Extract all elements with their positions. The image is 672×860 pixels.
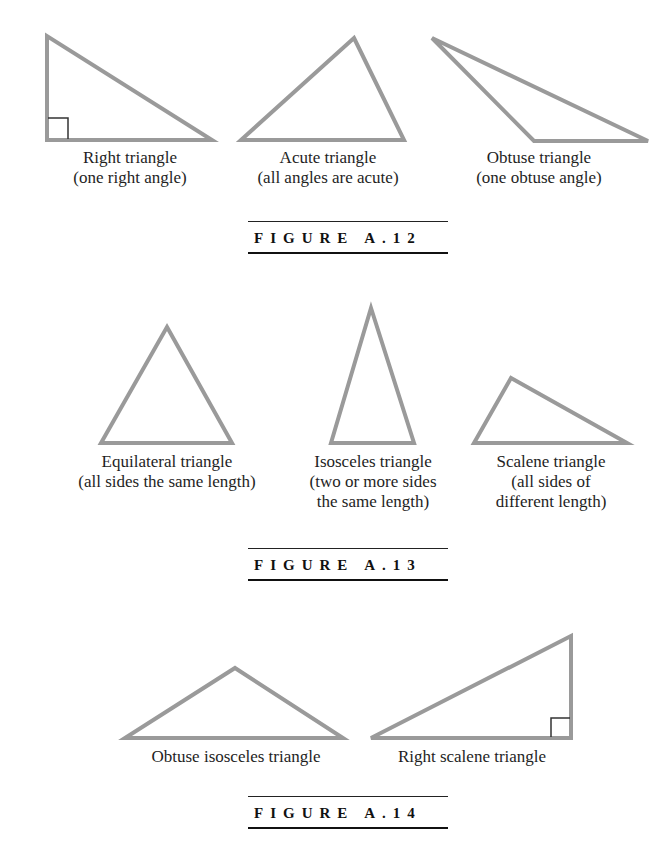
triangle-description: the same length) xyxy=(309,492,436,512)
caption-rule-bottom xyxy=(248,252,448,254)
triangle-diagrams xyxy=(0,0,672,860)
scalene-triangle-shape xyxy=(474,378,627,443)
caption-text: FIGURE A.13 xyxy=(248,549,448,579)
right-scalene-triangle-label: Right scalene triangle xyxy=(398,747,546,767)
right-angle-marker xyxy=(48,118,68,139)
equilateral-triangle-label: Equilateral triangle (all sides the same… xyxy=(78,452,256,492)
obtuse-triangle-shape xyxy=(432,38,648,141)
figure-caption-a13: FIGURE A.13 xyxy=(248,548,448,581)
triangle-name: Scalene triangle xyxy=(496,452,607,472)
triangle-name: Right triangle xyxy=(73,148,186,168)
triangle-description: different length) xyxy=(496,492,607,512)
triangle-description: (all angles are acute) xyxy=(257,168,398,188)
scalene-triangle-label: Scalene triangle (all sides of different… xyxy=(496,452,607,512)
triangle-name: Obtuse isosceles triangle xyxy=(151,747,320,767)
figure-caption-a14: FIGURE A.14 xyxy=(248,796,448,829)
triangle-description: (one right angle) xyxy=(73,168,186,188)
caption-rule-bottom xyxy=(248,827,448,829)
triangle-description: (all sides the same length) xyxy=(78,472,256,492)
isosceles-triangle-shape xyxy=(331,308,414,443)
caption-text: FIGURE A.14 xyxy=(248,797,448,827)
isosceles-triangle-label: Isosceles triangle (two or more sides th… xyxy=(309,452,436,512)
triangle-name: Isosceles triangle xyxy=(309,452,436,472)
right-triangle-shape xyxy=(47,36,212,140)
triangle-name: Obtuse triangle xyxy=(476,148,602,168)
figure-caption-a12: FIGURE A.12 xyxy=(248,221,448,254)
triangle-name: Acute triangle xyxy=(257,148,398,168)
triangle-description: (one obtuse angle) xyxy=(476,168,602,188)
obtuse-triangle-label: Obtuse triangle (one obtuse angle) xyxy=(476,148,602,188)
right-triangle-label: Right triangle (one right angle) xyxy=(73,148,186,188)
triangle-description: (two or more sides xyxy=(309,472,436,492)
obtuse-isosceles-triangle-shape xyxy=(125,668,343,738)
triangle-name: Equilateral triangle xyxy=(78,452,256,472)
right-scalene-triangle-shape xyxy=(371,636,571,738)
acute-triangle-shape xyxy=(241,38,404,140)
equilateral-triangle-shape xyxy=(101,327,232,443)
right-angle-marker xyxy=(551,718,570,737)
caption-rule-bottom xyxy=(248,579,448,581)
caption-text: FIGURE A.12 xyxy=(248,222,448,252)
triangle-name: Right scalene triangle xyxy=(398,747,546,767)
triangle-description: (all sides of xyxy=(496,472,607,492)
obtuse-isosceles-triangle-label: Obtuse isosceles triangle xyxy=(151,747,320,767)
acute-triangle-label: Acute triangle (all angles are acute) xyxy=(257,148,398,188)
